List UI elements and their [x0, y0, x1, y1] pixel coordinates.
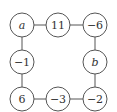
node-b: b: [83, 50, 107, 74]
graph-diagram: a 11 −6 b −2 −3: [0, 0, 117, 112]
node-label: b: [91, 56, 98, 69]
node-label: −2: [87, 93, 103, 106]
node-11: 11: [46, 13, 70, 37]
node-label: 11: [51, 19, 65, 32]
node-label: −6: [87, 19, 103, 32]
node-neg1: −1: [10, 50, 34, 74]
node-label: a: [19, 19, 26, 32]
node-neg2: −2: [83, 87, 107, 111]
nodes-group: a 11 −6 b −2 −3: [10, 13, 107, 111]
graph-svg: a 11 −6 b −2 −3: [0, 0, 117, 112]
node-label: −3: [50, 93, 66, 106]
node-label: −1: [14, 56, 30, 69]
node-label: 6: [19, 93, 26, 106]
node-neg3: −3: [46, 87, 70, 111]
node-neg6: −6: [83, 13, 107, 37]
node-a: a: [10, 13, 34, 37]
node-6: 6: [10, 87, 34, 111]
